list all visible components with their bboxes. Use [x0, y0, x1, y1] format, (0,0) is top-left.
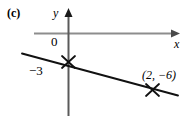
part-label: (c): [7, 7, 20, 19]
point-coordinate-label: (2, −6): [142, 69, 176, 81]
origin-label: 0: [51, 35, 58, 48]
figure-panel: (c) y x 0 −3 (2, −6): [0, 0, 193, 123]
y-intercept-value-label: −3: [29, 64, 43, 77]
y-axis-label: y: [53, 7, 58, 19]
coordinate-plane-graphic: [0, 0, 193, 123]
x-axis-label: x: [174, 38, 179, 50]
